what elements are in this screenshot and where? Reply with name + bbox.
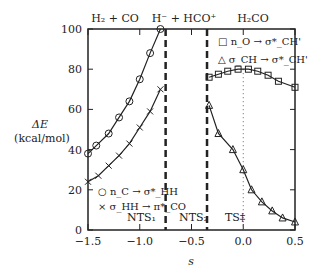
svg-text:H⁻ + HCO⁺: H⁻ + HCO⁺ [152, 12, 217, 25]
svg-text:△ σ_CH → σ*_CH': △ σ_CH → σ*_CH' [218, 54, 308, 66]
svg-text:H₂ + CO: H₂ + CO [91, 12, 139, 25]
svg-text:60: 60 [68, 103, 82, 116]
svg-text:TS‡: TS‡ [225, 211, 246, 224]
svg-text:20: 20 [68, 184, 82, 197]
svg-text:× σ_HH → π*_CO: × σ_HH → π*_CO [98, 201, 186, 213]
svg-text:○ n_C → σ*_HH: ○ n_C → σ*_HH [98, 186, 178, 198]
svg-text:−1.5: −1.5 [75, 235, 102, 248]
svg-text:NTS₂: NTS₂ [179, 211, 208, 224]
svg-text:NTS₁: NTS₁ [127, 211, 156, 224]
svg-text:s: s [188, 255, 194, 268]
svg-text:80: 80 [68, 63, 82, 76]
svg-text:□ n_O → σ*_CH': □ n_O → σ*_CH' [218, 36, 301, 48]
svg-text:ΔE: ΔE [31, 118, 48, 131]
svg-text:0.5: 0.5 [286, 235, 304, 248]
svg-text:−0.5: −0.5 [178, 235, 205, 248]
svg-text:−1.0: −1.0 [126, 235, 153, 248]
svg-text:(kcal/mol): (kcal/mol) [14, 132, 70, 145]
svg-text:H₂CO: H₂CO [237, 12, 268, 25]
svg-text:0.0: 0.0 [235, 235, 253, 248]
svg-text:40: 40 [68, 144, 82, 157]
svg-text:100: 100 [61, 23, 82, 36]
chart: 020406080100−1.5−1.0−0.50.00.5H₂ + COH⁻ … [0, 0, 314, 275]
